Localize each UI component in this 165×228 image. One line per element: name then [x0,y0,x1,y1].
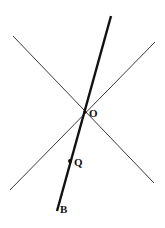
thin-line-1 [13,36,154,183]
label-B: B [60,203,68,215]
point-O-dot [83,110,86,113]
label-O: O [89,107,98,119]
point-Q-dot [68,159,72,163]
label-Q: Q [74,156,83,168]
thick-line-OB [57,16,111,211]
geometry-diagram: O Q B [0,0,165,228]
